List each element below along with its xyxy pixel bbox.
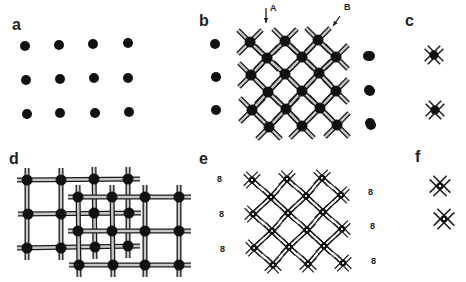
lattice-dot <box>21 75 31 85</box>
grid-a-node <box>56 243 67 254</box>
lattice-dot <box>90 108 100 118</box>
grid-b-node <box>73 192 84 203</box>
node-center <box>252 213 254 215</box>
junction-node <box>331 52 342 63</box>
grid-a-node <box>90 242 101 253</box>
figure-eight-marker: 8 <box>220 245 225 254</box>
arrow-b <box>333 16 340 26</box>
cross-unit <box>425 46 444 65</box>
grid-b-node <box>140 226 151 237</box>
grid-b-node <box>174 260 185 271</box>
grid-b-node <box>107 226 118 237</box>
rod-core <box>17 179 140 180</box>
lattice-dot <box>124 107 134 117</box>
junction-node <box>263 87 274 98</box>
open-node <box>340 260 346 266</box>
panel-a-dot-lattice <box>20 38 134 119</box>
side-dot <box>211 72 221 82</box>
node-center <box>323 245 325 247</box>
junction-node <box>297 86 308 97</box>
grid-a-node <box>22 175 33 186</box>
lattice-dot <box>123 73 133 83</box>
panel-label-e: e <box>199 151 208 167</box>
cross-node-dot <box>431 106 440 115</box>
cross-unit <box>426 101 445 120</box>
junction-node <box>315 103 326 114</box>
node-center <box>253 247 255 249</box>
figure-eight-marker: 8 <box>370 222 375 231</box>
grid-b-node <box>108 260 119 271</box>
node-center <box>341 228 343 230</box>
open-node <box>270 262 276 268</box>
grid-b-node <box>174 226 185 237</box>
grid-a-node <box>123 241 134 252</box>
node-center <box>306 229 308 231</box>
node-center <box>287 212 289 214</box>
panel-c-cross-units <box>365 46 444 130</box>
arrow-a <box>264 8 268 23</box>
open-node <box>305 261 311 267</box>
grid-a-node <box>123 174 134 185</box>
junction-node <box>313 35 324 46</box>
lattice-dot <box>22 109 32 119</box>
panel-label-d: d <box>9 151 19 167</box>
node-center <box>272 264 274 266</box>
grid-a-node <box>56 209 67 220</box>
lattice-dot <box>55 108 65 118</box>
side-dot <box>211 105 221 115</box>
open-node <box>285 210 291 216</box>
open-node <box>319 175 325 181</box>
side-dot <box>365 86 375 96</box>
junction-node <box>297 52 308 63</box>
panel-label-f: f <box>415 149 420 165</box>
junction-node <box>245 37 256 48</box>
open-node <box>284 176 290 182</box>
grid-a-node <box>23 209 34 220</box>
panel-label-a: a <box>12 17 21 33</box>
node-center <box>305 195 307 197</box>
grid-a-node <box>124 208 135 219</box>
junction-node <box>331 86 342 97</box>
node-center <box>271 230 273 232</box>
side-dot <box>365 51 375 61</box>
arrow-label-a: A <box>270 4 277 13</box>
side-dot <box>366 120 376 130</box>
grid-b-node <box>74 260 85 271</box>
panel-label-b: b <box>199 13 209 29</box>
node-center <box>251 179 253 181</box>
grid-b-node <box>140 192 151 203</box>
node-center <box>321 177 323 179</box>
arrow-head <box>264 18 268 23</box>
figure-canvas: a b c d e f A B 888888 <box>0 0 466 282</box>
open-node <box>339 226 345 232</box>
panel-b-diagonal-rod-lattice <box>210 28 375 139</box>
grid-a-node <box>22 243 33 254</box>
grid-b-node <box>107 192 118 203</box>
junction-node <box>281 104 292 115</box>
grid-b-node <box>73 226 84 237</box>
grid-a-node <box>89 208 100 219</box>
grid-a-node <box>56 175 67 186</box>
open-node <box>249 177 255 183</box>
lattice-dot <box>88 39 98 49</box>
junction-node <box>246 70 257 81</box>
open-node <box>304 227 310 233</box>
junction-node <box>280 69 291 80</box>
junction-node <box>297 121 308 132</box>
junction-node <box>332 120 343 131</box>
figure-eight-marker: 8 <box>217 175 222 184</box>
panel-f-cross-units <box>430 176 455 230</box>
open-node <box>303 193 309 199</box>
open-node <box>250 211 256 217</box>
node-center <box>286 178 288 180</box>
junction-node <box>280 36 291 47</box>
lattice-dot <box>89 73 99 83</box>
lattice-dot <box>20 41 30 51</box>
grid-a-node <box>89 174 100 185</box>
node-center <box>307 263 309 265</box>
cross-node-center <box>443 218 445 220</box>
open-node <box>286 244 292 250</box>
cross-node-dot <box>430 51 439 60</box>
lattice-dot <box>55 74 65 84</box>
side-dot <box>210 39 220 49</box>
